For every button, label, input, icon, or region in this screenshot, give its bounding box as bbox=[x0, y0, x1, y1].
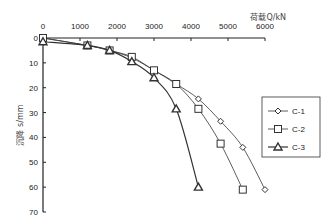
legend-marker bbox=[275, 126, 282, 133]
data-point-marker bbox=[172, 105, 180, 112]
legend-box bbox=[262, 97, 320, 157]
x-tick-label: 5000 bbox=[219, 22, 237, 31]
y-tick-label: 50 bbox=[29, 158, 38, 167]
data-point-marker bbox=[194, 183, 202, 190]
x-tick-label: 1000 bbox=[71, 22, 89, 31]
y-tick-label: 70 bbox=[29, 208, 38, 217]
data-point-marker bbox=[262, 187, 268, 193]
data-point-marker bbox=[239, 186, 246, 193]
series-c-1 bbox=[40, 35, 268, 193]
y-tick-label: 60 bbox=[29, 183, 38, 192]
y-tick-label: 10 bbox=[29, 59, 38, 68]
load-settlement-chart: 0100020003000400050006000010203040506070… bbox=[0, 0, 336, 224]
series-c-3 bbox=[39, 38, 202, 190]
y-tick-label: 20 bbox=[29, 84, 38, 93]
series-line bbox=[43, 42, 198, 187]
legend: C-1C-2C-3 bbox=[262, 97, 320, 157]
y-tick-label: 40 bbox=[29, 133, 38, 142]
series-line bbox=[43, 38, 243, 190]
series-c-2 bbox=[40, 35, 247, 194]
x-tick-label: 0 bbox=[41, 22, 46, 31]
y-axis-title: 沉降 s/mm bbox=[15, 104, 25, 145]
x-tick-label: 3000 bbox=[145, 22, 163, 31]
data-point-marker bbox=[195, 105, 202, 112]
legend-label: C-2 bbox=[292, 125, 305, 134]
x-tick-label: 4000 bbox=[182, 22, 200, 31]
y-tick-label: 0 bbox=[34, 34, 39, 43]
legend-label: C-3 bbox=[292, 143, 305, 152]
legend-label: C-1 bbox=[292, 107, 305, 116]
data-point-marker bbox=[173, 80, 180, 87]
y-tick-label: 30 bbox=[29, 109, 38, 118]
series-group bbox=[39, 35, 268, 194]
x-tick-label: 2000 bbox=[108, 22, 126, 31]
x-tick-label: 6000 bbox=[256, 22, 274, 31]
data-point-marker bbox=[217, 140, 224, 147]
series-line bbox=[43, 38, 265, 190]
x-axis-title: 荷载Q/kN bbox=[250, 12, 286, 22]
axes: 0100020003000400050006000010203040506070 bbox=[29, 22, 274, 217]
data-point-marker bbox=[240, 144, 246, 150]
